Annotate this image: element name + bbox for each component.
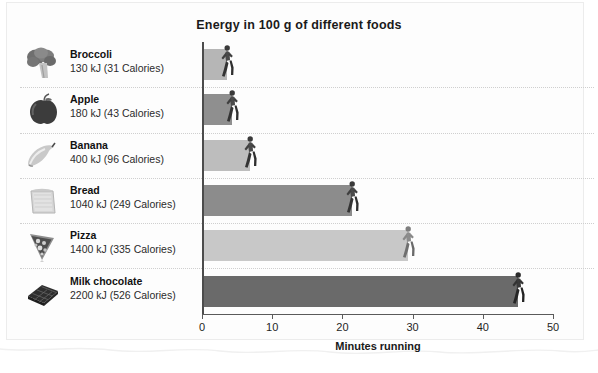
- x-axis: [202, 314, 554, 315]
- x-axis-label: Minutes running: [202, 340, 554, 352]
- bar-row: [202, 223, 594, 268]
- x-tick-label: 50: [533, 321, 573, 333]
- banana-icon: [22, 136, 62, 174]
- page-title: Energy in 100 g of different foods: [0, 18, 598, 32]
- bar-row: [202, 269, 594, 314]
- list-item-text: Milk chocolate 2200 kJ (526 Calories): [70, 275, 220, 302]
- food-name: Apple: [70, 93, 220, 106]
- food-energy: 2200 kJ (526 Calories): [70, 288, 220, 302]
- list-item-text: Bread 1040 kJ (249 Calories): [70, 184, 220, 211]
- x-tick-label: 40: [463, 321, 503, 333]
- x-tick: [342, 314, 343, 319]
- food-energy: 130 kJ (31 Calories): [70, 61, 220, 75]
- runner-icon: [400, 224, 416, 266]
- x-tick-label: 20: [322, 321, 362, 333]
- food-energy: 400 kJ (96 Calories): [70, 152, 220, 166]
- x-tick: [413, 314, 414, 319]
- list-item: Milk chocolate 2200 kJ (526 Calories): [22, 269, 202, 314]
- runner-icon: [224, 88, 240, 130]
- runner-icon: [344, 179, 360, 221]
- bar-row: [202, 42, 594, 87]
- list-item: Banana 400 kJ (96 Calories): [22, 133, 202, 178]
- bar-pizza: [202, 230, 408, 261]
- bar-row: [202, 87, 594, 132]
- bar-row: [202, 178, 594, 223]
- runner-icon: [510, 270, 526, 312]
- food-name: Broccoli: [70, 48, 220, 61]
- apple-icon: [22, 90, 62, 128]
- runner-icon: [219, 43, 235, 85]
- food-name: Bread: [70, 184, 220, 197]
- list-item: Pizza 1400 kJ (335 Calories): [22, 223, 202, 268]
- x-tick: [553, 314, 554, 319]
- list-item-text: Pizza 1400 kJ (335 Calories): [70, 229, 220, 256]
- food-name: Banana: [70, 139, 220, 152]
- food-energy: 1040 kJ (249 Calories): [70, 197, 220, 211]
- x-tick-label: 0: [182, 321, 222, 333]
- food-energy: 1400 kJ (335 Calories): [70, 242, 220, 256]
- food-energy: 180 kJ (43 Calories): [70, 106, 220, 120]
- bar-row: [202, 133, 594, 178]
- x-tick: [272, 314, 273, 319]
- chart-page: Energy in 100 g of different foods Brocc…: [0, 0, 598, 373]
- list-item-text: Banana 400 kJ (96 Calories): [70, 139, 220, 166]
- food-name: Pizza: [70, 229, 220, 242]
- x-tick: [483, 314, 484, 319]
- pizza-icon: [22, 226, 62, 264]
- list-item: Broccoli 130 kJ (31 Calories): [22, 42, 202, 87]
- x-tick-label: 10: [252, 321, 292, 333]
- bread-icon: [22, 181, 62, 219]
- list-item: Bread 1040 kJ (249 Calories): [22, 178, 202, 223]
- runner-icon: [242, 134, 258, 176]
- x-tick: [202, 314, 203, 319]
- x-tick-label: 30: [393, 321, 433, 333]
- chocolate-icon: [22, 272, 62, 310]
- y-axis: [202, 42, 204, 314]
- list-item-text: Broccoli 130 kJ (31 Calories): [70, 48, 220, 75]
- list-item-text: Apple 180 kJ (43 Calories): [70, 93, 220, 120]
- food-name: Milk chocolate: [70, 275, 220, 288]
- broccoli-icon: [22, 45, 62, 83]
- list-item: Apple 180 kJ (43 Calories): [22, 87, 202, 132]
- bar-bread: [202, 185, 352, 216]
- plot-area: 0 10 20 30 40 50 Minutes running: [202, 42, 554, 314]
- bar-milk-chocolate: [202, 276, 518, 307]
